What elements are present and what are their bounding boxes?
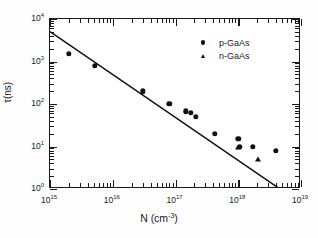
y-axis-tick-label: 100 xyxy=(20,184,44,193)
y-axis-minor-tick xyxy=(50,117,54,118)
y-axis-major-tick xyxy=(50,147,57,148)
x-axis-top-minor-tick xyxy=(162,19,163,23)
y-tick-base: 10 xyxy=(31,55,40,65)
y-axis-minor-tick xyxy=(50,71,54,72)
x-axis-minor-tick xyxy=(132,183,133,187)
y-axis-minor-tick xyxy=(50,21,54,22)
y-axis-minor-tick xyxy=(50,28,54,29)
y-axis-right-minor-tick xyxy=(295,66,299,67)
x-axis-top-minor-tick xyxy=(94,19,95,23)
x-axis-minor-tick xyxy=(232,183,233,187)
y-axis-right-minor-tick xyxy=(295,32,299,33)
x-axis-top-minor-tick xyxy=(132,19,133,23)
x-axis-minor-tick xyxy=(219,183,220,187)
x-axis-minor-tick xyxy=(213,183,214,187)
x-axis-title-base: N (cm xyxy=(140,212,168,224)
y-axis-right-minor-tick xyxy=(295,49,299,50)
y-tick-exponent: 0 xyxy=(41,182,44,188)
x-axis-top-minor-tick xyxy=(173,19,174,23)
x-axis-tick-label: 1019 xyxy=(292,196,308,205)
chart-legend: p-GaAsn-GaAs xyxy=(196,36,250,62)
y-axis-tick-label: 103 xyxy=(20,56,44,65)
trend-line xyxy=(50,19,299,187)
legend-item-p-gaas[interactable]: p-GaAs xyxy=(196,36,250,49)
y-axis-right-minor-tick xyxy=(295,159,299,160)
x-axis-minor-tick xyxy=(69,183,70,187)
x-axis-top-minor-tick xyxy=(194,19,195,23)
y-axis-right-minor-tick xyxy=(295,78,299,79)
x-axis-top-major-tick xyxy=(301,19,302,26)
x-axis-top-minor-tick xyxy=(166,19,167,23)
y-axis-right-minor-tick xyxy=(295,153,299,154)
y-axis-major-tick xyxy=(50,189,57,190)
y-axis-tick-label: 102 xyxy=(20,99,44,108)
legend-marker-glyph xyxy=(201,54,205,58)
y-axis-right-minor-tick xyxy=(295,71,299,72)
x-axis-major-tick xyxy=(176,180,177,187)
plot-area xyxy=(49,18,300,188)
y-axis-right-major-tick xyxy=(292,189,299,190)
y-tick-exponent: 2 xyxy=(41,97,44,103)
y-axis-right-minor-tick xyxy=(295,84,299,85)
x-axis-top-minor-tick xyxy=(107,19,108,23)
y-axis-minor-tick xyxy=(50,113,54,114)
y-axis-right-minor-tick xyxy=(295,74,299,75)
x-axis-top-minor-tick xyxy=(276,19,277,23)
x-axis-minor-tick xyxy=(224,183,225,187)
y-axis-minor-tick xyxy=(50,63,54,64)
x-axis-minor-tick xyxy=(268,183,269,187)
y-axis-right-major-tick xyxy=(292,104,299,105)
y-axis-right-minor-tick xyxy=(295,41,299,42)
x-axis-top-minor-tick xyxy=(99,19,100,23)
x-axis-major-tick xyxy=(238,180,239,187)
x-tick-exponent: 16 xyxy=(113,194,120,200)
y-axis-minor-tick xyxy=(50,159,54,160)
x-axis-top-major-tick xyxy=(238,19,239,26)
x-axis-minor-tick xyxy=(194,183,195,187)
legend-item-n-gaas[interactable]: n-GaAs xyxy=(196,49,250,62)
legend-marker-glyph xyxy=(201,40,206,45)
x-axis-top-minor-tick xyxy=(213,19,214,23)
x-axis-tick-label: 1016 xyxy=(104,196,120,205)
y-axis-minor-tick xyxy=(50,126,54,127)
x-axis-top-minor-tick xyxy=(219,19,220,23)
x-axis-minor-tick xyxy=(169,183,170,187)
x-axis-top-minor-tick xyxy=(257,19,258,23)
x-axis-minor-tick xyxy=(157,183,158,187)
x-axis-minor-tick xyxy=(173,183,174,187)
x-axis-top-minor-tick xyxy=(169,19,170,23)
y-axis-minor-tick xyxy=(50,153,54,154)
y-axis-minor-tick xyxy=(50,41,54,42)
y-axis-right-minor-tick xyxy=(295,108,299,109)
y-axis-minor-tick xyxy=(50,49,54,50)
data-point-n-gaas xyxy=(235,144,241,149)
y-tick-base: 10 xyxy=(31,183,40,193)
x-axis-major-tick xyxy=(113,180,114,187)
x-axis-tick-label: 1018 xyxy=(229,196,245,205)
x-axis-top-minor-tick xyxy=(80,19,81,23)
x-axis-minor-tick xyxy=(282,183,283,187)
y-axis-minor-tick xyxy=(50,36,54,37)
y-axis-minor-tick xyxy=(50,91,54,92)
x-axis-minor-tick xyxy=(166,183,167,187)
data-layer xyxy=(50,19,299,187)
x-axis-minor-tick xyxy=(143,183,144,187)
y-axis-minor-tick xyxy=(50,78,54,79)
y-axis-right-minor-tick xyxy=(295,68,299,69)
y-axis-right-major-tick xyxy=(292,62,299,63)
x-tick-exponent: 17 xyxy=(176,194,183,200)
x-axis-top-minor-tick xyxy=(235,19,236,23)
x-axis-minor-tick xyxy=(287,183,288,187)
y-axis-right-minor-tick xyxy=(295,176,299,177)
y-axis-right-minor-tick xyxy=(295,134,299,135)
x-axis-minor-tick xyxy=(229,183,230,187)
x-axis-minor-tick xyxy=(205,183,206,187)
y-axis-right-minor-tick xyxy=(295,151,299,152)
x-axis-top-minor-tick xyxy=(287,19,288,23)
y-axis-right-minor-tick xyxy=(295,126,299,127)
y-axis-right-minor-tick xyxy=(295,117,299,118)
y-axis-right-minor-tick xyxy=(295,163,299,164)
y-axis-right-minor-tick xyxy=(295,63,299,64)
y-axis-right-minor-tick xyxy=(295,28,299,29)
y-axis-minor-tick xyxy=(50,111,54,112)
